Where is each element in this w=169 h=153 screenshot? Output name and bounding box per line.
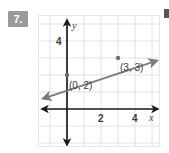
x-tick-label-4: 4 (132, 113, 138, 124)
point-label-3-3: (3, 3) (120, 62, 143, 73)
point-marker-0-2 (65, 73, 69, 77)
page-edge-artifact (164, 9, 169, 18)
x-axis-label: x (148, 112, 154, 123)
coordinate-graph-figure: y x 4 2 4 (0, 2) (3, 3) (38, 15, 160, 147)
point-marker-3-3 (116, 56, 120, 60)
grid-lines-vertical (50, 16, 152, 147)
point-label-0-2: (0, 2) (69, 80, 92, 91)
x-tick-label-2: 2 (98, 113, 104, 124)
y-tick-label-4: 4 (56, 36, 62, 47)
coordinate-graph-svg: y x 4 2 4 (0, 2) (3, 3) (39, 16, 160, 147)
y-axis-label: y (71, 20, 77, 31)
exercise-figure-page: 7. (0, 0, 169, 153)
exercise-number-badge: 7. (8, 11, 28, 27)
